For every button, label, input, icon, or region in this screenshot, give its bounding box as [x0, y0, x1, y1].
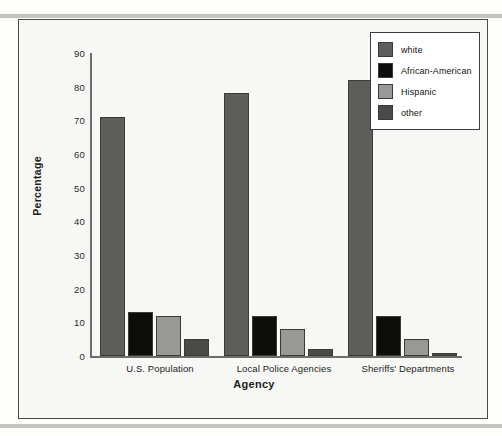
- y-tick-label: 40: [53, 216, 85, 227]
- bar: [252, 316, 277, 356]
- legend-label: African-American: [401, 66, 472, 76]
- bar: [128, 312, 153, 356]
- bar: [376, 316, 401, 356]
- chart-figure: 9080706050403020100 Percentage U.S. Popu…: [18, 19, 488, 419]
- legend-swatch: [378, 42, 393, 57]
- y-tick-label: 80: [53, 81, 85, 92]
- legend-swatch: [378, 105, 393, 120]
- bar: [280, 329, 305, 356]
- x-axis-line: [90, 356, 462, 358]
- y-tick-label: 60: [53, 149, 85, 160]
- legend-label: white: [401, 45, 423, 55]
- y-axis-title: Percentage: [31, 146, 43, 226]
- scanned-page: 9080706050403020100 Percentage U.S. Popu…: [0, 0, 502, 436]
- x-axis-title: Agency: [19, 378, 489, 390]
- bar: [100, 117, 125, 356]
- legend-label: Hispanic: [401, 87, 436, 97]
- legend-item: Hispanic: [378, 81, 473, 102]
- y-tick-label: 30: [53, 250, 85, 261]
- bar-group: [100, 53, 220, 356]
- y-tick-label: 50: [53, 182, 85, 193]
- bar-group: [224, 53, 344, 356]
- x-tick-label: Sheriffs' Departments: [334, 363, 482, 374]
- bar: [404, 339, 429, 356]
- legend-label: other: [401, 108, 422, 118]
- legend-swatch: [378, 84, 393, 99]
- legend-swatch: [378, 63, 393, 78]
- bar: [308, 349, 333, 356]
- y-tick-label: 90: [53, 48, 85, 59]
- legend-item: African-American: [378, 60, 473, 81]
- bar: [224, 93, 249, 356]
- y-tick-label: 10: [53, 317, 85, 328]
- legend-item: other: [378, 102, 473, 123]
- plot-area: 9080706050403020100 Percentage U.S. Popu…: [19, 20, 489, 420]
- y-tick-label: 70: [53, 115, 85, 126]
- bar: [156, 316, 181, 356]
- y-tick-label: 20: [53, 283, 85, 294]
- bar: [432, 353, 457, 356]
- page-rule-bottom: [0, 424, 502, 428]
- legend-item: white: [378, 39, 473, 60]
- y-tick-label: 0: [53, 351, 85, 362]
- bar: [184, 339, 209, 356]
- y-axis-ticks: 9080706050403020100: [53, 20, 85, 420]
- page-rule-top: [0, 14, 502, 18]
- chart-legend: whiteAfrican-AmericanHispanicother: [370, 32, 480, 130]
